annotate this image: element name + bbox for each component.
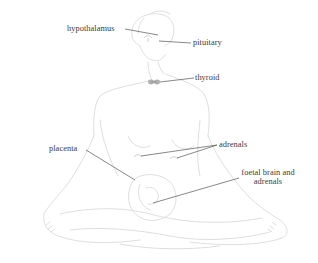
label-placenta: placenta xyxy=(49,144,77,153)
leader-placenta xyxy=(86,150,135,180)
label-adrenals: adrenals xyxy=(219,140,247,149)
label-pituitary: pituitary xyxy=(193,38,222,47)
figure-illustration xyxy=(0,0,318,263)
maternal-adrenals xyxy=(134,155,178,159)
endocrine-diagram: hypothalamus pituitary thyroid adrenals … xyxy=(0,0,318,263)
leader-adrenals-1 xyxy=(141,145,217,156)
label-hypothalamus: hypothalamus xyxy=(67,24,115,33)
leader-pituitary xyxy=(159,41,191,43)
label-foetal-line1: foetal brain and xyxy=(238,168,298,177)
label-foetal-line2: adrenals xyxy=(238,177,298,186)
brain-glands xyxy=(144,36,152,42)
thyroid-gland xyxy=(148,80,160,85)
leader-adrenals-2 xyxy=(177,145,217,158)
label-foetal-brain: foetal brain and adrenals xyxy=(238,168,298,186)
leader-foetal xyxy=(153,178,239,203)
label-thyroid: thyroid xyxy=(195,73,220,82)
body-outline xyxy=(44,11,287,249)
leader-hypothalamus xyxy=(125,29,158,35)
